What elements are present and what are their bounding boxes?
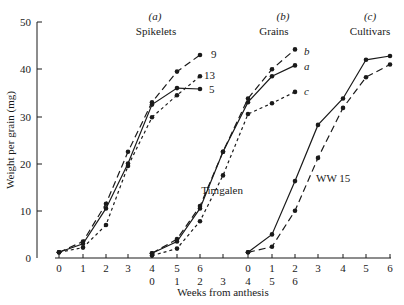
x-tick-label: 6 [197,262,203,274]
data-point [270,74,275,79]
data-point [126,161,131,166]
x-tick-label: 3 [315,262,321,274]
data-point [246,250,251,255]
data-point [175,69,180,74]
panel-a-label: (a) [149,10,162,23]
series-label-9: 9 [211,48,217,60]
series-c-timgalen [246,54,393,255]
data-point [316,123,321,128]
series-label-5: 5 [209,83,215,95]
data-point [293,47,298,52]
y-tick-label: 20 [20,158,32,170]
series-b-c [150,90,298,258]
data-point [293,179,298,184]
data-point [270,232,275,237]
panel-b-heading: (b) Grains [259,10,289,37]
data-point [364,75,369,80]
series-a-9 [57,53,203,255]
data-point [316,156,321,161]
data-point [293,209,298,214]
x-tick-label: 4 [149,262,155,274]
y-axis-title: Weight per grain (mg) [4,91,17,189]
data-point [293,63,298,68]
x-tick-label: 4 [340,262,346,274]
panel-b-title: Grains [259,25,288,37]
data-point [175,93,180,98]
data-point [270,67,275,72]
data-point [341,106,346,111]
series-label-a: a [304,60,310,72]
data-point [198,87,203,92]
data-point [246,100,251,105]
data-point [57,250,62,255]
data-point [364,58,369,63]
data-point [198,206,203,211]
series-c-ww-15 [246,62,393,254]
x-tick-label: 0 [56,262,62,274]
panel-a-heading: (a) Spikelets [136,10,176,37]
x-tick-label-grains: 0 [149,275,155,287]
y-tick-label: 30 [20,111,32,123]
data-point [293,90,298,95]
panel-c-label: (c) [364,10,377,23]
y-tick-label: 50 [20,16,32,28]
data-point [175,86,180,91]
panel-a-title: Spikelets [136,25,176,37]
series-label-ww15: WW 15 [316,172,351,184]
data-point [150,253,155,258]
panel-c-heading: (c) Cultivars [350,10,390,37]
data-point [150,102,155,107]
panel-b-label: (b) [277,10,290,23]
series-label-b: b [304,45,310,57]
x-tick-label: 2 [103,262,109,274]
series-label-13: 13 [204,69,216,81]
x-axis: 012345601234560123456 Weeks from anthesi… [55,254,393,298]
data-point [341,96,346,101]
x-tick-label: 1 [269,262,275,274]
x-tick-label: 1 [80,262,86,274]
data-point [270,244,275,249]
panel-c-title: Cultivars [350,25,390,37]
x-tick-label: 5 [363,262,369,274]
y-axis: 0 10 20 30 40 50 Weight per grain (mg) [4,16,42,264]
data-point [81,242,86,247]
series-a-5 [57,86,203,255]
data-point [221,150,226,155]
data-point [104,223,109,228]
data-point [150,115,155,120]
data-point [104,206,109,211]
data-point [126,150,131,155]
data-series [57,47,393,258]
weight-per-grain-chart: 0 10 20 30 40 50 Weight per grain (mg) 0… [0,0,404,305]
data-point [246,112,251,117]
data-point [388,62,393,67]
series-label-timgalen: Timgalen [201,184,243,196]
data-point [198,219,203,224]
data-point [198,74,203,79]
x-tick-label: 5 [174,262,180,274]
data-point [175,246,180,251]
data-point [270,101,275,106]
data-point [198,53,203,58]
x-axis-title: Weeks from anthesis [177,286,268,298]
x-tick-label: 6 [387,262,393,274]
x-tick-label: 0 [245,262,251,274]
data-point [221,173,226,178]
y-tick-label: 0 [26,252,32,264]
x-tick-label: 3 [125,262,131,274]
series-label-c: c [304,85,309,97]
x-tick-label: 2 [292,262,298,274]
x-tick-label-grains: 5 [269,275,275,287]
y-tick-label: 40 [20,63,32,75]
data-point [175,239,180,244]
data-point [388,54,393,59]
x-tick-label-grains: 6 [292,275,298,287]
y-tick-label: 10 [20,205,32,217]
